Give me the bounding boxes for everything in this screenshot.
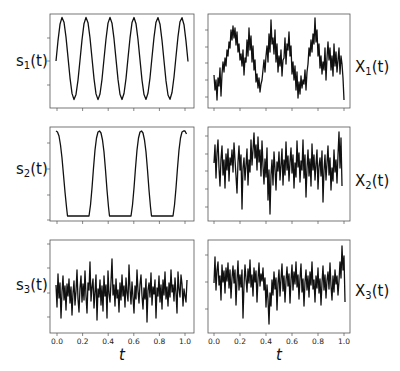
signal-s3-line bbox=[56, 259, 187, 322]
svg-text:0.8: 0.8 bbox=[312, 337, 324, 346]
x-ticks bbox=[57, 221, 185, 224]
svg-text:0.6: 0.6 bbox=[128, 337, 140, 346]
svg-text:0.2: 0.2 bbox=[77, 337, 89, 346]
x-ticks bbox=[57, 333, 185, 336]
svg-text:0.6: 0.6 bbox=[286, 337, 298, 346]
y-ticks bbox=[47, 143, 50, 220]
y-ticks bbox=[205, 30, 208, 97]
ylabel-s2: s2(t) bbox=[16, 160, 48, 179]
ylabel-x3: X3(t) bbox=[355, 282, 389, 301]
x-ticks bbox=[214, 221, 344, 224]
svg-text:1.0: 1.0 bbox=[338, 337, 350, 346]
svg-text:0.0: 0.0 bbox=[51, 337, 63, 346]
svg-text:0.4: 0.4 bbox=[260, 337, 272, 346]
xlabel-t: t bbox=[276, 346, 283, 364]
svg-text:0.0: 0.0 bbox=[208, 337, 220, 346]
signal-x1-line bbox=[214, 18, 344, 100]
x-ticks bbox=[57, 108, 185, 111]
panel-s2: s2(t) bbox=[16, 127, 194, 224]
ylabel-x2: X2(t) bbox=[355, 172, 389, 191]
signal-s1-line bbox=[56, 17, 188, 99]
ylabel-s3: s3(t) bbox=[16, 276, 48, 295]
svg-text:0.2: 0.2 bbox=[234, 337, 246, 346]
figure-canvas: s1(t) s2(t) 0.0 0.2 0.4 0.6 0.8 1.0 t s3 bbox=[0, 0, 400, 371]
ylabel-x1: X1(t) bbox=[355, 58, 389, 77]
x-tick-labels: 0.0 0.2 0.4 0.6 0.8 1.0 bbox=[208, 337, 350, 346]
ylabel-s1: s1(t) bbox=[16, 52, 48, 71]
panel-x3: 0.0 0.2 0.4 0.6 0.8 1.0 t X3(t) bbox=[205, 240, 389, 364]
svg-text:1.0: 1.0 bbox=[179, 337, 191, 346]
svg-text:0.4: 0.4 bbox=[102, 337, 114, 346]
x-ticks bbox=[214, 108, 344, 111]
signal-x3-line bbox=[214, 246, 345, 324]
x-ticks bbox=[214, 333, 344, 336]
signal-s2-line bbox=[56, 131, 187, 216]
x-tick-labels: 0.0 0.2 0.4 0.6 0.8 1.0 bbox=[51, 337, 191, 346]
panel-s1: s1(t) bbox=[16, 14, 194, 111]
svg-text:0.8: 0.8 bbox=[153, 337, 165, 346]
axes-frame bbox=[50, 127, 194, 221]
panel-s3: 0.0 0.2 0.4 0.6 0.8 1.0 t s3(t) bbox=[16, 240, 194, 364]
y-ticks bbox=[205, 136, 208, 207]
xlabel-t: t bbox=[119, 346, 126, 364]
signal-x2-line bbox=[214, 132, 342, 214]
y-ticks bbox=[205, 255, 208, 309]
panel-x1: X1(t) bbox=[205, 14, 389, 111]
panel-x2: X2(t) bbox=[205, 127, 389, 224]
